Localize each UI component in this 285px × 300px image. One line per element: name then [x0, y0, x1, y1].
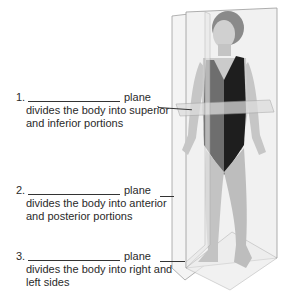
label-3-blank[interactable]: [28, 250, 120, 261]
face: [213, 20, 235, 48]
label-1-blank[interactable]: [28, 91, 120, 102]
label-3: 3. plane divides the body into right and…: [16, 250, 176, 289]
label-3-suffix: plane: [124, 250, 151, 263]
label-2-suffix: plane: [124, 184, 151, 197]
pointer-line-2: [160, 196, 174, 197]
label-1-description: divides the body into superior and infer…: [16, 104, 176, 130]
label-3-number: 3.: [16, 250, 26, 263]
label-1-number: 1.: [16, 91, 26, 104]
label-2-number: 2.: [16, 184, 26, 197]
label-2: 2. plane divides the body into anterior …: [16, 184, 176, 223]
label-1-suffix: plane: [124, 91, 151, 104]
label-2-description: divides the body into anterior and poste…: [16, 197, 176, 223]
label-1: 1. plane divides the body into superior …: [16, 91, 176, 130]
pointer-line-3: [160, 261, 185, 262]
label-2-blank[interactable]: [28, 184, 120, 195]
label-3-description: divides the body into right and left sid…: [16, 263, 176, 289]
